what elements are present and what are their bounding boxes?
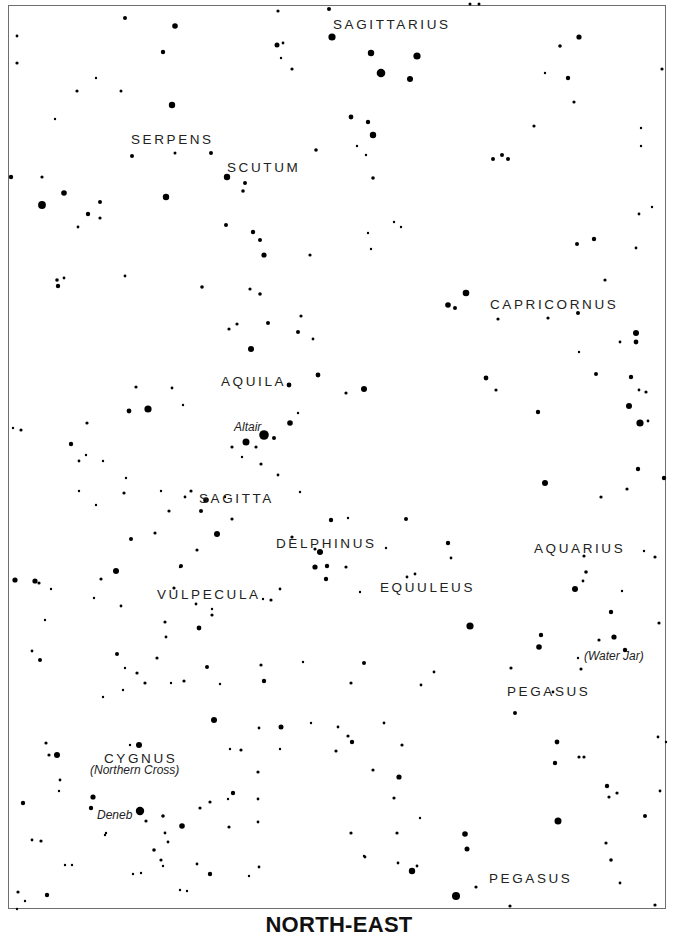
star-icon: [328, 33, 335, 40]
star-icon: [31, 839, 34, 842]
star-icon: [258, 866, 261, 869]
star-icon: [276, 9, 279, 12]
star-icon: [132, 873, 134, 875]
star-icon: [604, 841, 607, 844]
star-icon: [235, 322, 238, 325]
star-icon: [392, 796, 395, 799]
star-icon: [619, 341, 622, 344]
star-icon: [254, 445, 257, 448]
star-icon: [38, 201, 46, 209]
constellation-label: SAGITTARIUS: [333, 17, 451, 32]
star-icon: [275, 43, 280, 48]
constellation-label: CAPRICORNUS: [490, 297, 618, 312]
star-icon: [113, 568, 119, 574]
star-icon: [231, 791, 235, 795]
star-icon: [39, 839, 42, 842]
star-icon: [16, 908, 18, 910]
star-icon: [78, 490, 80, 492]
star-icon: [465, 847, 470, 852]
star-icon: [160, 490, 162, 492]
star-icon: [243, 439, 250, 446]
star-icon: [259, 462, 262, 465]
constellation-labels-layer: SAGITTARIUSSERPENSSCUTUMCAPRICORNUSAQUIL…: [104, 17, 625, 886]
star-icon: [370, 248, 372, 250]
star-icon: [165, 636, 168, 639]
star-icon: [129, 744, 131, 746]
star-icon: [636, 467, 640, 471]
star-icon: [78, 460, 81, 463]
star-icon: [71, 864, 73, 866]
star-icon: [179, 823, 185, 829]
star-icon: [239, 748, 242, 751]
star-icon: [55, 278, 59, 282]
star-icon: [566, 76, 570, 80]
star-icon: [582, 755, 585, 758]
star-icon: [609, 610, 613, 614]
star-icon: [582, 580, 585, 583]
star-icon: [299, 314, 302, 317]
star-icon: [227, 825, 230, 828]
star-icon: [558, 44, 562, 48]
star-icon: [312, 338, 315, 341]
star-icon: [15, 61, 18, 64]
star-icon: [371, 176, 375, 180]
constellation-label: SAGITTA: [199, 491, 274, 506]
star-icon: [120, 605, 123, 608]
star-icon: [662, 476, 666, 480]
star-icon: [463, 290, 470, 297]
star-icon: [230, 445, 233, 448]
star-icon: [63, 277, 66, 280]
star-icon: [44, 619, 46, 621]
constellation-label: PEGASUS: [507, 684, 590, 699]
star-icon: [356, 145, 358, 147]
star-icon: [657, 621, 660, 624]
star-icon: [619, 882, 622, 885]
star-icon: [95, 504, 97, 506]
star-icon: [279, 588, 282, 591]
star-icon: [553, 761, 557, 765]
star-icon: [9, 175, 13, 179]
star-icon: [227, 798, 229, 800]
star-icon: [393, 221, 395, 223]
star-icon: [258, 292, 262, 296]
star-icon: [182, 679, 185, 682]
star-icon: [607, 795, 610, 798]
star-icon: [21, 801, 25, 805]
star-icon: [350, 740, 354, 744]
star-icon: [37, 581, 40, 584]
star-icon: [127, 409, 132, 414]
constellation-label: VULPECULA: [157, 587, 261, 602]
star-icon: [124, 275, 127, 278]
star-icon: [397, 862, 400, 865]
star-icon: [419, 817, 421, 819]
star-icon: [248, 346, 254, 352]
star-icon: [659, 790, 662, 793]
star-icon: [44, 741, 47, 744]
star-icon: [122, 491, 125, 494]
star-icon: [241, 456, 243, 458]
star-icon: [367, 232, 369, 234]
star-icon: [536, 410, 540, 414]
star-icon: [334, 749, 337, 752]
star-icon: [625, 487, 628, 490]
star-icon: [169, 102, 175, 108]
star-icon: [578, 351, 580, 353]
star-icon: [400, 743, 403, 746]
constellation-label: DELPHINUS: [276, 536, 377, 551]
star-icon: [643, 814, 647, 818]
star-icon: [416, 865, 419, 868]
star-icon: [64, 864, 66, 866]
star-icon: [40, 175, 43, 178]
star-icon: [85, 454, 87, 456]
star-icon: [102, 460, 104, 462]
star-icon: [99, 577, 102, 580]
star-icon: [258, 238, 262, 242]
star-icon: [243, 181, 247, 185]
star-icon: [170, 682, 172, 684]
star-icon: [61, 190, 67, 196]
star-icon: [163, 194, 169, 200]
star-icon: [349, 115, 354, 120]
star-icon: [603, 278, 606, 281]
star-icon: [102, 696, 104, 698]
star-name-label: Altair: [233, 420, 262, 434]
